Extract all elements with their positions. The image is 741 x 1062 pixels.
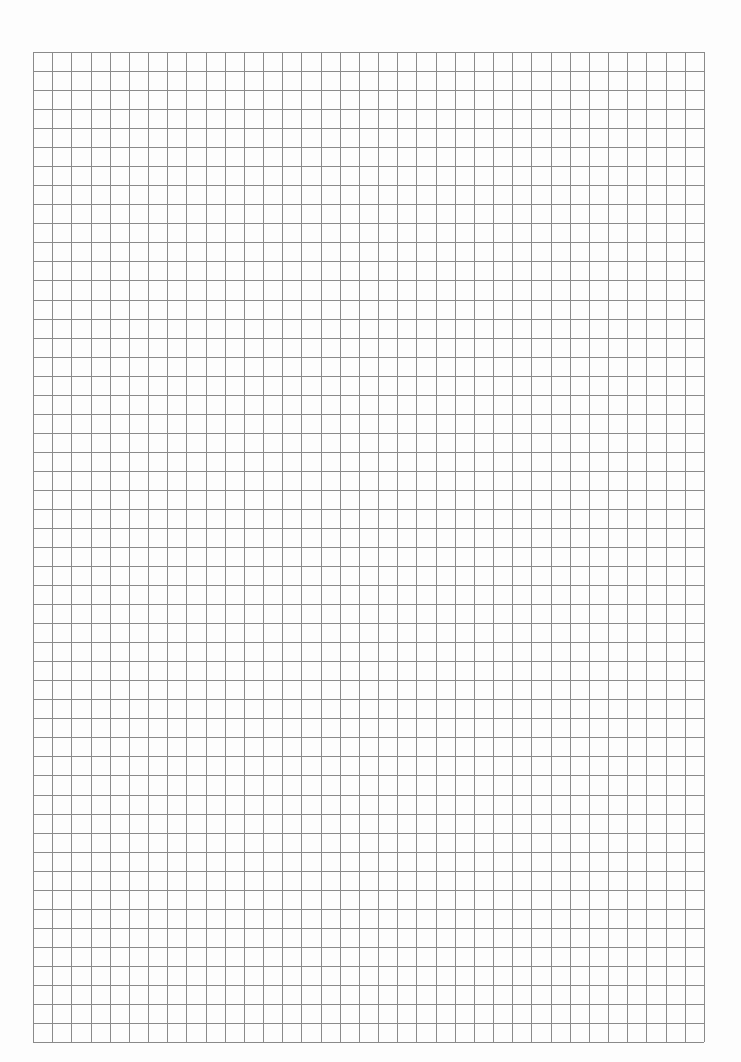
graph-paper-grid — [0, 0, 741, 1062]
